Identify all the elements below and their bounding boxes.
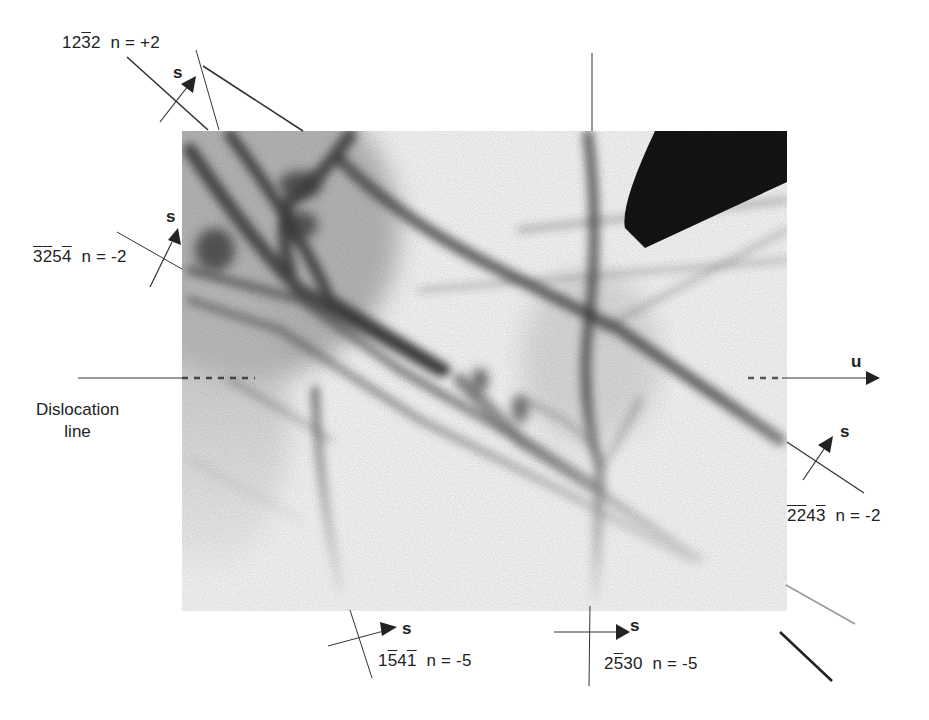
index-digit: 4	[397, 651, 407, 670]
index-digit: 1	[62, 33, 72, 52]
order-n: n = -2	[835, 506, 880, 525]
index-digit: 3	[623, 654, 633, 673]
s-label: s	[173, 63, 182, 83]
index-digit-barred: 2	[797, 506, 807, 525]
cbed-figure: 1232 n = +2 s 3254 n = -2 s Dislocation …	[0, 0, 929, 720]
u-label: u	[851, 352, 861, 372]
index-digit: 2	[604, 654, 614, 673]
index-digit-barred: 5	[388, 651, 398, 670]
index-digit: 2	[91, 33, 101, 52]
label-line-1: Dislocation	[36, 399, 119, 421]
index-digit-barred: 3	[33, 247, 43, 266]
index-digit-barred: 2	[43, 247, 53, 266]
label-line-2: line	[36, 421, 119, 443]
order-n: n = -5	[426, 651, 471, 670]
reflection-label-2243: 2243 n = -2	[787, 506, 881, 526]
index-digit-barred: 3	[81, 33, 91, 52]
index-digit: 2	[72, 33, 82, 52]
s-label: s	[840, 422, 849, 442]
index-digit-barred: 4	[62, 247, 72, 266]
index-digit-barred: 2	[787, 506, 797, 525]
u-arrowhead	[866, 371, 880, 385]
index-digit-barred: 1	[407, 651, 417, 670]
reflection-label-3254: 3254 n = -2	[33, 247, 127, 267]
s-label: s	[630, 616, 639, 636]
index-digit: 4	[806, 506, 816, 525]
index-digit: 0	[633, 654, 643, 673]
reflection-label-2530: 2530 n = -5	[604, 654, 698, 674]
order-n: n = +2	[110, 33, 159, 52]
order-n: n = -5	[652, 654, 697, 673]
index-digit: 1	[378, 651, 388, 670]
reflection-label-1232: 1232 n = +2	[62, 33, 160, 53]
dislocation-line-label: Dislocation line	[36, 399, 119, 443]
reflection-label-1541: 1541 n = -5	[378, 651, 472, 671]
order-n: n = -2	[81, 247, 126, 266]
micrograph-svg	[0, 0, 929, 720]
index-digit-barred: 3	[816, 506, 826, 525]
s-label: s	[402, 619, 411, 639]
index-digit: 5	[52, 247, 62, 266]
index-digit-barred: 5	[614, 654, 624, 673]
micrograph	[100, 80, 787, 611]
s-label: s	[166, 207, 175, 227]
